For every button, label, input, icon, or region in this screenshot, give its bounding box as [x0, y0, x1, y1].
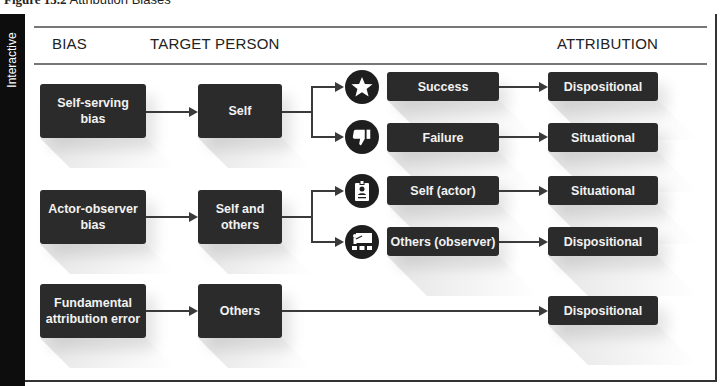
bias-label-line2: attribution error [46, 312, 140, 326]
connector-line [146, 111, 190, 113]
star-icon [345, 70, 379, 104]
attribution-box-dispositional: Dispositional [548, 72, 658, 101]
id-badge-icon [345, 174, 379, 208]
target-label-line2: others [221, 218, 259, 232]
frame-border-bottom [25, 380, 717, 382]
connector-line [499, 241, 540, 243]
connector-line [282, 310, 540, 312]
outcome-box-success: Success [387, 72, 499, 101]
arrow-head-icon [539, 82, 548, 92]
box-shadow [198, 138, 312, 168]
figure-title-text: Attribution Biases [70, 0, 171, 7]
arrow-head-icon [335, 82, 344, 92]
connector-line [311, 241, 336, 243]
arrow-head-icon [335, 237, 344, 247]
target-box-self: Self [198, 84, 282, 138]
target-box-others: Others [198, 284, 282, 338]
outcome-box-failure: Failure [387, 123, 499, 152]
bias-box-self-serving: Self-servingbias [40, 84, 146, 138]
header-rule-bottom [34, 63, 707, 65]
attribution-box-dispositional: Dispositional [548, 227, 658, 256]
connector-line [311, 86, 336, 88]
connector-line [282, 111, 312, 113]
connector-line [311, 136, 336, 138]
connector-line [282, 216, 312, 218]
arrow-head-icon [189, 306, 198, 316]
arrow-head-icon [539, 237, 548, 247]
target-label-line1: Self and [216, 202, 265, 216]
bias-label-line2: bias [80, 112, 105, 126]
connector-line [146, 310, 190, 312]
connector-branch [311, 86, 313, 138]
box-shadow [40, 244, 176, 274]
connector-line [146, 216, 190, 218]
target-box-self-and-others: Self andothers [198, 190, 282, 244]
attribution-box-situational: Situational [548, 176, 658, 205]
bias-label-line1: Self-serving [57, 96, 129, 110]
box-shadow [387, 256, 539, 296]
thumbs-down-icon [345, 120, 379, 154]
connector-line [499, 136, 540, 138]
bias-label-line1: Actor-observer [48, 202, 138, 216]
attribution-box-dispositional: Dispositional [548, 296, 658, 325]
bias-box-fundamental-attribution-error: Fundamentalattribution error [40, 284, 146, 338]
bias-box-actor-observer: Actor-observerbias [40, 190, 146, 244]
figure-label: Figure 13.2 [4, 0, 67, 7]
connector-line [499, 190, 540, 192]
arrow-head-icon [189, 212, 198, 222]
connector-branch [311, 190, 313, 242]
connector-line [311, 190, 336, 192]
arrow-head-icon [539, 132, 548, 142]
box-shadow [198, 338, 312, 368]
frame-border-right [715, 14, 717, 382]
box-shadow [40, 138, 176, 168]
header-bias: BIAS [52, 35, 87, 52]
bias-label-line2: bias [80, 218, 105, 232]
outcome-box-self-actor: Self (actor) [387, 176, 499, 205]
outcome-box-others-observer: Others (observer) [387, 227, 499, 256]
header-attribution: ATTRIBUTION [557, 35, 658, 52]
connector-line [499, 86, 540, 88]
box-shadow [198, 244, 312, 274]
box-shadow [548, 325, 698, 365]
arrow-head-icon [539, 306, 548, 316]
attribution-box-situational: Situational [548, 123, 658, 152]
figure-title: Figure 13.2 Attribution Biases [4, 0, 171, 8]
audience-presentation-icon [345, 225, 379, 259]
interactive-label: Interactive [5, 32, 19, 87]
arrow-head-icon [189, 107, 198, 117]
interactive-sidebar: Interactive [0, 14, 25, 386]
header-target-person: TARGET PERSON [150, 35, 280, 52]
box-shadow [548, 256, 698, 296]
header-rule-top [34, 26, 707, 28]
box-shadow [40, 338, 176, 368]
arrow-head-icon [335, 186, 344, 196]
arrow-head-icon [335, 132, 344, 142]
bias-label-line1: Fundamental [54, 296, 132, 310]
arrow-head-icon [539, 186, 548, 196]
